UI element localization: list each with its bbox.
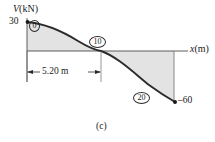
end-value-label: –60 [178,96,192,106]
x-axis-label: x(m) [190,44,209,54]
dimension-arrow-right [95,70,101,74]
figure-caption: (c) [96,122,107,132]
end-point-marker [173,100,177,104]
dimension-label: 5.20 m [42,67,68,77]
circled-label-10: 10 [89,36,106,48]
circled-label-0: 0 [29,20,40,32]
y-axis-label: V(kN) [13,4,38,14]
dimension-arrow-left [27,70,33,74]
start-value-label: 30 [9,17,19,27]
shear-force-diagram-figure: V(kN) x(m) 30 –60 0 10 20 5.20 m (c) [0,0,215,142]
circled-label-20: 20 [133,92,150,104]
y-axis-unit: (kN) [19,3,38,14]
x-axis-unit: (m) [194,43,208,54]
